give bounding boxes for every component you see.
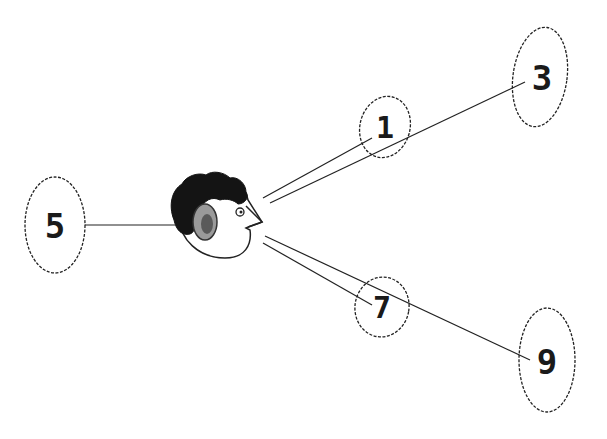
edge-head-3 — [270, 82, 525, 203]
ear-inner — [201, 214, 213, 234]
edge-head-9 — [265, 236, 530, 360]
node-label-5: 5 — [45, 206, 65, 246]
edges — [85, 82, 530, 360]
edge-head-7 — [263, 243, 372, 305]
node-3: 3 — [506, 24, 573, 131]
listener-head — [171, 172, 262, 258]
edge-head-1 — [263, 138, 372, 198]
node-label-3: 3 — [532, 58, 552, 98]
node-label-9: 9 — [537, 342, 557, 382]
node-5: 5 — [25, 177, 85, 273]
node-7: 7 — [350, 273, 414, 341]
diagram-canvas: 1 3 5 7 9 — [0, 0, 607, 439]
node-1: 1 — [353, 91, 417, 164]
node-label-7: 7 — [373, 290, 391, 325]
node-label-1: 1 — [376, 110, 394, 145]
pupil — [240, 211, 243, 214]
node-9: 9 — [519, 308, 575, 412]
